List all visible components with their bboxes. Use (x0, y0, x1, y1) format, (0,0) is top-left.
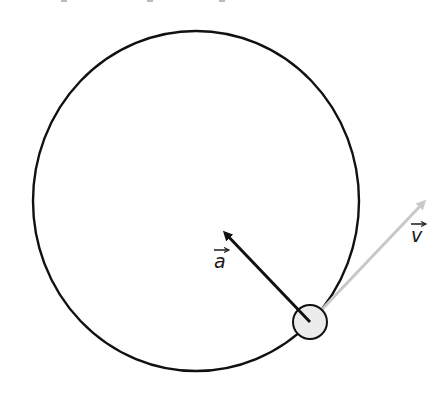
cropped-text-fragment (61, 0, 67, 2)
circular-motion-diagram: a v (0, 0, 448, 402)
velocity-label: v (411, 222, 426, 247)
top-text-fragments (61, 0, 225, 2)
acceleration-vector-arrow (225, 233, 310, 322)
acceleration-label-text: a (214, 250, 226, 272)
velocity-vector-arrow (310, 202, 424, 322)
acceleration-label: a (214, 248, 229, 273)
cropped-text-fragment (147, 0, 153, 2)
cropped-text-fragment (219, 0, 225, 2)
velocity-label-text: v (411, 224, 423, 246)
